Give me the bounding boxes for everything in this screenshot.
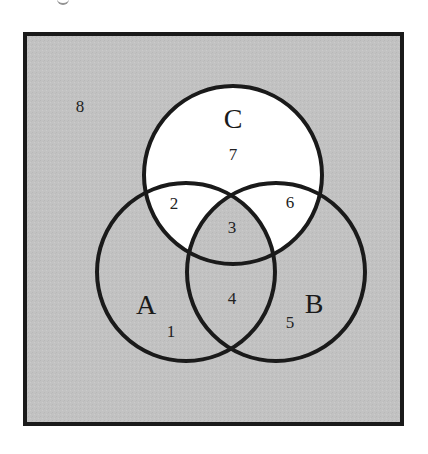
region-label-1: 1 xyxy=(167,322,176,341)
region-label-8: 8 xyxy=(76,97,85,116)
venn-diagram: C A B 1 2 3 4 5 6 7 8 xyxy=(0,0,428,454)
region-label-5: 5 xyxy=(286,313,295,332)
set-label-c: C xyxy=(224,103,243,134)
region-label-4: 4 xyxy=(228,289,237,308)
region-label-6: 6 xyxy=(286,193,295,212)
set-label-a: A xyxy=(136,289,157,320)
set-label-b: B xyxy=(305,288,324,319)
region-label-7: 7 xyxy=(229,145,238,164)
region-label-2: 2 xyxy=(170,194,179,213)
region-label-3: 3 xyxy=(228,218,237,237)
